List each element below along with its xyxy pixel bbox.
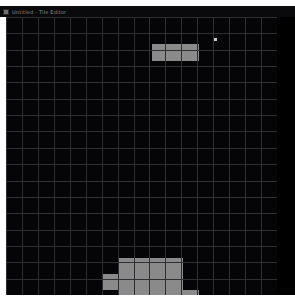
window-right-margin (277, 17, 295, 295)
tile-region[interactable] (119, 258, 183, 274)
app-window: Untitled - Tile Editor (0, 0, 295, 303)
tile-region[interactable] (152, 44, 199, 61)
window-bottom-margin (0, 295, 295, 303)
tile-region[interactable] (103, 274, 183, 290)
title-bar[interactable]: Untitled - Tile Editor (0, 6, 295, 17)
grid-lines (6, 17, 277, 295)
grid-canvas[interactable] (6, 17, 277, 295)
window-title: Untitled - Tile Editor (12, 9, 66, 15)
app-icon (3, 9, 9, 15)
pixel-marker-1 (214, 38, 217, 41)
